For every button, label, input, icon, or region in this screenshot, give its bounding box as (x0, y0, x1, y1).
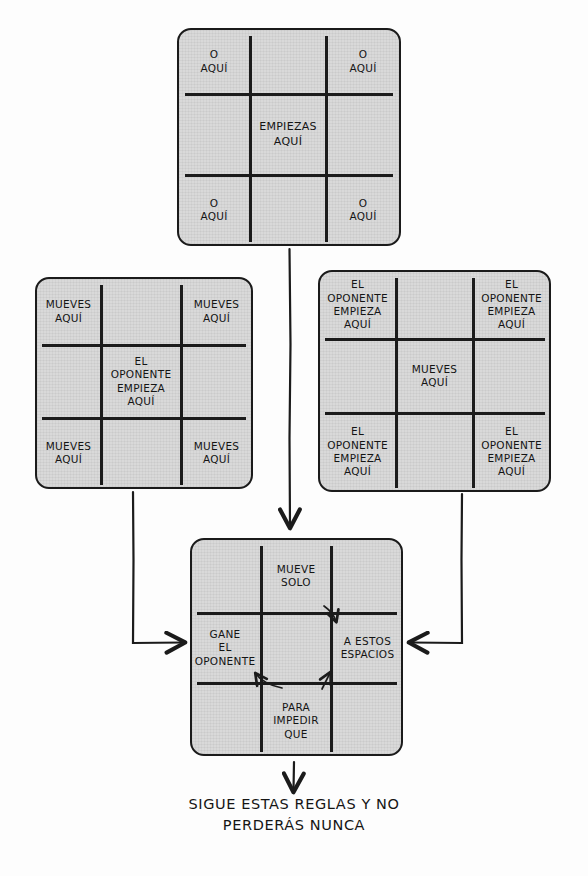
cell-middle-left (37, 346, 100, 417)
cell-top-right (332, 540, 401, 612)
cell-line-3: AQUÍ (344, 318, 371, 331)
cell-bottom-center (102, 419, 180, 487)
cell-line-0: EL (134, 355, 147, 368)
connector-start-to-block (290, 249, 291, 526)
cell-line-0: GANE (209, 628, 240, 641)
cell-line-0: EL (505, 278, 518, 291)
cell-line-1: OPONENTE (327, 292, 388, 305)
cell-line-0: MUEVES (46, 298, 92, 311)
cell-line-1: AQUÍ (55, 312, 82, 325)
board-opponent-corners: ELOPONENTEEMPIEZAAQUÍ ELOPONENTEEMPIEZAA… (318, 270, 551, 492)
cell-line-1: EL (218, 641, 231, 654)
cell-top-center: MUEVESOLO (262, 540, 330, 612)
caption-line-2: PERDERÁS NUNCA (0, 815, 588, 836)
cell-line-1: AQUÍ (349, 210, 376, 223)
cell-middle-right: A ESTOSESPACIOS (332, 614, 403, 682)
cell-line-0: EL (351, 278, 364, 291)
board-opponent-center: MUEVESAQUÍ MUEVESAQUÍ ELOPONENTEEMPIEZAA… (35, 277, 253, 489)
cell-line-1: OPONENTE (111, 368, 172, 381)
connector-opponent-corners-to-block (411, 494, 462, 643)
cell-middle-center (262, 614, 330, 682)
cell-line-1: AQUÍ (203, 312, 230, 325)
cell-line-2: EMPIEZA (487, 452, 535, 465)
cell-middle-left: GANEELOPONENTE (190, 614, 260, 682)
cell-middle-left (179, 95, 249, 174)
cell-line-0: EL (505, 425, 518, 438)
cell-line-0: O (359, 48, 368, 61)
cell-line-3: AQUÍ (498, 318, 525, 331)
cell-line-0: MUEVES (194, 440, 240, 453)
caption-line-1: SIGUE ESTAS REGLAS Y NO (0, 794, 588, 815)
cell-top-left: MUEVESAQUÍ (37, 279, 100, 344)
cell-line-1: OPONENTE (327, 439, 388, 452)
connector-opponent-center-to-block (133, 492, 183, 643)
cell-line-2: EMPIEZA (487, 305, 535, 318)
cell-middle-center: MUEVESAQUÍ (397, 340, 472, 412)
cell-top-center (102, 279, 180, 344)
cell-bottom-center: PARAIMPEDIRQUE (262, 688, 330, 754)
cell-line-3: AQUÍ (127, 395, 154, 408)
cell-top-center (251, 30, 325, 93)
cell-top-left: OAQUÍ (179, 30, 249, 93)
cell-line-1: AQUÍ (274, 135, 303, 149)
cell-line-1: SOLO (281, 576, 311, 589)
caption: SIGUE ESTAS REGLAS Y NO PERDERÁS NUNCA (0, 794, 588, 836)
cell-bottom-left: ELOPONENTEEMPIEZAAQUÍ (320, 414, 395, 490)
cell-bottom-center (251, 176, 325, 244)
connector-block-to-caption (294, 762, 295, 790)
cell-line-0: MUEVES (194, 298, 240, 311)
cell-line-3: AQUÍ (498, 465, 525, 478)
cell-line-1: AQUÍ (55, 453, 82, 466)
cell-line-0: EL (351, 425, 364, 438)
cell-line-3: AQUÍ (344, 465, 371, 478)
cell-line-0: EMPIEZAS (259, 120, 317, 134)
cell-line-1: AQUÍ (200, 62, 227, 75)
cell-top-right: OAQUÍ (327, 30, 399, 93)
cell-top-center (397, 272, 472, 338)
cell-bottom-right (332, 684, 401, 754)
cell-top-left (192, 540, 260, 612)
cell-top-right: MUEVESAQUÍ (182, 279, 251, 344)
cell-bottom-center (397, 414, 472, 490)
cell-bottom-right: MUEVESAQUÍ (182, 419, 251, 487)
page-bleed-text (420, 520, 424, 537)
board-start: OAQUÍ OAQUÍ EMPIEZASAQUÍ OAQUÍ OAQUÍ (177, 28, 401, 246)
cell-middle-center: EMPIEZASAQUÍ (251, 95, 325, 174)
cell-line-1: AQUÍ (349, 62, 376, 75)
cell-bottom-left: MUEVESAQUÍ (37, 419, 100, 487)
board-block: MUEVESOLO GANEELOPONENTE A ESTOSESPACIOS… (190, 538, 403, 756)
cell-line-0: MUEVES (46, 440, 92, 453)
cell-middle-right (182, 346, 251, 417)
cell-line-0: A ESTOS (344, 635, 391, 648)
cell-middle-center: ELOPONENTEEMPIEZAAQUÍ (102, 346, 180, 417)
cell-middle-left (320, 340, 395, 412)
cell-line-0: MUEVES (412, 363, 458, 376)
cell-line-0: O (359, 197, 368, 210)
cell-bottom-right: OAQUÍ (327, 176, 399, 244)
cell-line-2: QUE (284, 728, 307, 741)
cell-bottom-left: OAQUÍ (179, 176, 249, 244)
cell-line-1: AQUÍ (421, 376, 448, 389)
cell-line-2: EMPIEZA (333, 305, 381, 318)
cell-line-1: AQUÍ (203, 453, 230, 466)
cell-line-1: AQUÍ (200, 210, 227, 223)
cell-line-2: OPONENTE (195, 655, 256, 668)
cell-line-0: MUEVE (277, 563, 316, 576)
cell-top-right: ELOPONENTEEMPIEZAAQUÍ (474, 272, 549, 338)
cell-middle-right (327, 95, 399, 174)
cell-line-2: EMPIEZA (333, 452, 381, 465)
cell-line-0: O (210, 197, 219, 210)
cell-bottom-left (192, 684, 260, 754)
cell-line-2: EMPIEZA (117, 382, 165, 395)
cell-line-1: IMPEDIR (273, 714, 319, 727)
cell-bottom-right: ELOPONENTEEMPIEZAAQUÍ (474, 414, 549, 490)
cell-line-1: ESPACIOS (341, 648, 395, 661)
cell-line-0: O (210, 48, 219, 61)
diagram-page: OAQUÍ OAQUÍ EMPIEZASAQUÍ OAQUÍ OAQUÍ MUE… (0, 0, 588, 876)
cell-line-0: PARA (282, 701, 310, 714)
cell-line-1: OPONENTE (481, 292, 542, 305)
cell-line-1: OPONENTE (481, 439, 542, 452)
cell-middle-right (474, 340, 549, 412)
cell-top-left: ELOPONENTEEMPIEZAAQUÍ (320, 272, 395, 338)
